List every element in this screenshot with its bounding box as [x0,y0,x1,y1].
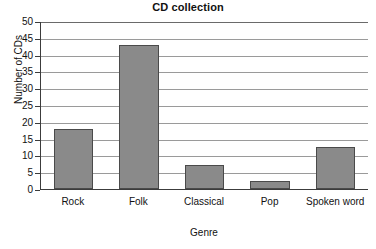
chart-title: CD collection [0,1,376,13]
bar-folk [119,45,158,189]
y-tick-label-30: 30 [5,84,33,94]
bar-classical [185,165,224,189]
bar-pop [250,181,289,189]
y-tick-label-0: 0 [5,185,33,195]
bar-series [41,22,368,189]
x-tick-label-pop: Pop [237,196,303,207]
x-axis-ticks: RockFolkClassicalPopSpoken word [40,196,368,207]
bar-slot-classical [172,22,237,189]
y-tick-label-40: 40 [5,51,33,61]
y-tick-mark-0 [35,190,40,191]
bar-spoken-word [316,147,355,189]
x-tick-label-classical: Classical [171,196,237,207]
x-tick-label-folk: Folk [106,196,172,207]
y-tick-label-15: 15 [5,135,33,145]
x-axis-title: Genre [40,227,368,238]
bar-chart: CD collection Number of CDs 051015202530… [0,0,376,249]
y-tick-label-50: 50 [5,17,33,27]
x-tick-label-rock: Rock [40,196,106,207]
bar-slot-rock [41,22,106,189]
y-axis-ticks: 05101520253035404550 [0,22,40,190]
y-tick-label-45: 45 [5,34,33,44]
bar-slot-pop [237,22,302,189]
x-tick-label-spoken-word: Spoken word [302,196,368,207]
y-tick-label-10: 10 [5,151,33,161]
bar-slot-spoken-word [303,22,368,189]
y-tick-label-35: 35 [5,67,33,77]
plot-area [40,22,368,190]
y-tick-label-5: 5 [5,168,33,178]
bar-slot-folk [106,22,171,189]
y-tick-label-20: 20 [5,118,33,128]
bar-rock [54,129,93,189]
y-tick-label-25: 25 [5,101,33,111]
